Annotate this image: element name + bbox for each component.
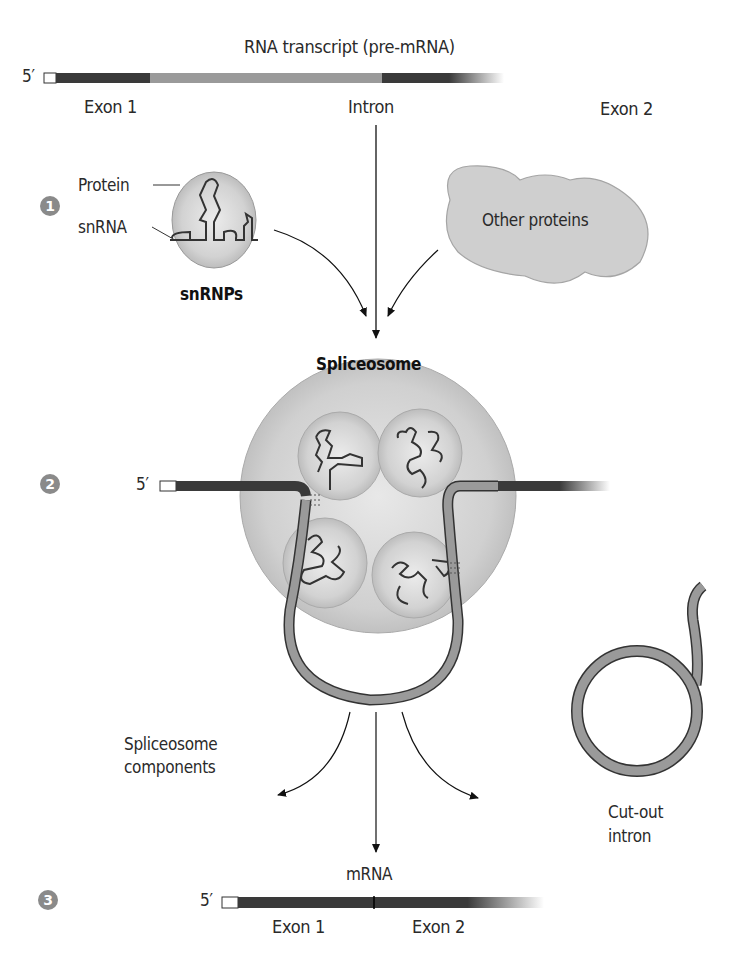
components-label-1: Spliceosome [124,734,217,754]
spliceosome-subunit [298,412,382,500]
five-prime-label: 5′ [22,66,35,86]
cut-out-intron-lariat [577,586,703,771]
step-1-badge: 1 [40,196,60,216]
pre-mrna-strand [44,73,504,83]
snrnps-label: snRNPs [180,284,243,304]
arrow-to-intron [402,712,478,798]
step-3-badge: 3 [38,890,58,910]
mrna-label: mRNA [346,864,392,884]
arrow-proteins-to-spliceosome [388,250,438,316]
exon2-label: Exon 2 [600,98,653,119]
pre-mrna-title: RNA transcript (pre-mRNA) [244,36,455,57]
mrna-exon2-label: Exon 2 [412,916,465,937]
mrna-strand [222,896,544,909]
snrna-leader-line [152,227,175,240]
snrnp-particle [170,172,258,268]
spliceosome-subunit [378,409,462,497]
mrna-exon1-label: Exon 1 [272,916,325,937]
spliceosome-title: Spliceosome [316,354,421,374]
arrow-to-components [278,712,350,795]
intron-product-label-2: intron [608,826,651,846]
spliceosome-subunit [372,532,456,618]
intron-label: Intron [348,96,394,117]
five-prime-label-3: 5′ [200,890,213,910]
components-label-2: components [124,757,216,777]
exon1-label: Exon 1 [84,96,137,117]
step-2-badge: 2 [40,474,60,494]
arrow-snrnps-to-spliceosome [274,230,366,316]
five-prime-label-2: 5′ [136,474,149,494]
snrna-label: snRNA [78,217,127,237]
protein-label: Protein [78,175,129,195]
other-proteins-label: Other proteins [482,210,588,230]
intron-product-label-1: Cut-out [608,802,663,822]
